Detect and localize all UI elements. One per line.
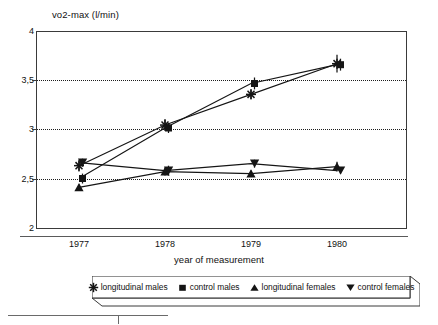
- triangle-down-marker-icon: [345, 282, 356, 293]
- y-tick-label-4: 4: [6, 26, 34, 36]
- line-control-males: [79, 65, 337, 179]
- asterisk-marker-icon: [88, 282, 99, 293]
- data-series-layer: [37, 32, 408, 230]
- chart-figure: vo2-max (l/min) 4 3,5 3 2,5 2: [0, 0, 438, 325]
- legend-label: longitudinal males: [101, 282, 168, 292]
- legend-label: longitudinal females: [262, 282, 336, 292]
- x-axis-line: [20, 236, 408, 237]
- markers-longitudinal-males[interactable]: [74, 59, 342, 171]
- x-tick-label-1980: 1980: [317, 239, 357, 249]
- page-divider: [8, 315, 168, 316]
- x-tick-label-1979: 1979: [231, 239, 271, 249]
- square-marker-icon: [177, 282, 188, 293]
- y-tick-label-2-5: 2,5: [6, 174, 34, 184]
- markers-control-males[interactable]: [79, 61, 344, 182]
- line-longitudinal-females: [79, 167, 337, 188]
- y-axis-title: vo2-max (l/min): [52, 9, 119, 20]
- legend-item-control-females[interactable]: control females: [345, 282, 415, 293]
- triangle-up-marker-icon: [249, 282, 260, 293]
- line-longitudinal-males: [79, 64, 337, 166]
- x-axis-title: year of measurement: [0, 254, 438, 265]
- page-divider-tick: [118, 316, 119, 324]
- legend: longitudinal males control males longitu…: [92, 276, 420, 308]
- y-tick-label-3: 3: [6, 124, 34, 134]
- y-tick-label-3-5: 3,5: [6, 75, 34, 85]
- legend-item-longitudinal-males[interactable]: longitudinal males: [88, 282, 168, 293]
- legend-item-control-males[interactable]: control males: [177, 282, 240, 293]
- x-tick-label-1978: 1978: [145, 239, 185, 249]
- x-tick-label-1977: 1977: [59, 239, 99, 249]
- y-tick-label-2: 2: [6, 223, 34, 233]
- legend-label: control females: [358, 282, 415, 292]
- plot-area: [36, 31, 407, 229]
- markers-longitudinal-females[interactable]: [74, 162, 341, 191]
- legend-item-longitudinal-females[interactable]: longitudinal females: [249, 282, 336, 293]
- legend-label: control males: [190, 282, 240, 292]
